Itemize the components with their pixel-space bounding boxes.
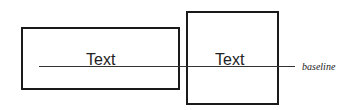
baseline-label: baseline	[302, 62, 335, 72]
baseline-line	[39, 66, 295, 67]
